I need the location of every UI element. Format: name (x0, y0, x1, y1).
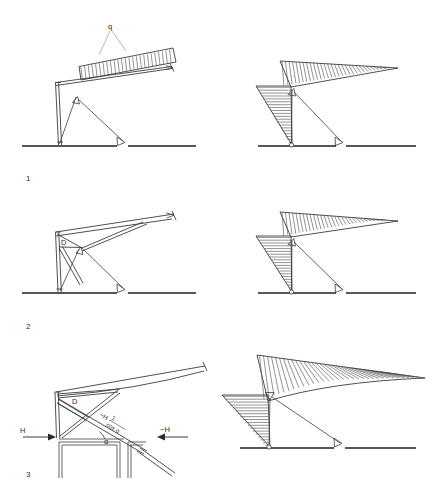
label-diagonal-d: D (72, 397, 78, 406)
row-3-left-diagram: D α −H · 1 (20, 362, 207, 478)
crossed-diagonals (57, 390, 147, 454)
diagonal-strut (272, 397, 342, 447)
beam-lower-flange (57, 222, 147, 251)
knee-joint-arrow (288, 239, 296, 292)
curved-cantilever-beam (56, 362, 207, 396)
row-2-left-diagram: D (22, 211, 196, 293)
row-1-left-diagram: q (22, 22, 196, 146)
diagonal-strut (78, 99, 125, 146)
pin-support (289, 143, 293, 147)
knee-joint-arrow (60, 97, 80, 145)
beam-moment-wedge (257, 355, 425, 401)
pin-support (267, 445, 271, 449)
diagonal-strut (294, 92, 343, 146)
label-load-q: q (108, 22, 112, 31)
row-1: q (22, 22, 416, 183)
row-1-right-moment-diagram (256, 61, 416, 147)
svg-text:−H ·: −H · (98, 411, 112, 423)
label-diagonal-d: D (61, 238, 67, 247)
label-force-h: H (20, 426, 25, 435)
row-3: D α −H · 1 (20, 355, 425, 479)
force-minus-h-arrow (157, 434, 188, 441)
row-3-right-moment-diagram (222, 355, 425, 449)
label-force-minus-h: −H (160, 425, 170, 434)
diagonal-strut (294, 242, 343, 293)
beam-moment-wedge (280, 61, 398, 87)
row-1-number: 1 (26, 174, 31, 183)
beam-moment-wedge (280, 212, 398, 237)
pin-support (289, 290, 293, 294)
diagonal-strut (82, 248, 125, 293)
load-label-leader (99, 31, 126, 55)
column-moment-wedge (256, 236, 292, 292)
force-h-arrow (23, 434, 56, 441)
column-moment-wedge (222, 395, 270, 447)
column (55, 83, 62, 146)
engineering-figure: q (0, 0, 434, 485)
cantilever-beam (56, 211, 176, 236)
row-2-number: 2 (26, 322, 31, 331)
row-2: D (22, 211, 416, 331)
row-2-right-moment-diagram (256, 212, 416, 294)
inclined-member-extension (137, 448, 175, 476)
row-3-number: 3 (26, 470, 31, 479)
column-moment-wedge (256, 86, 292, 145)
